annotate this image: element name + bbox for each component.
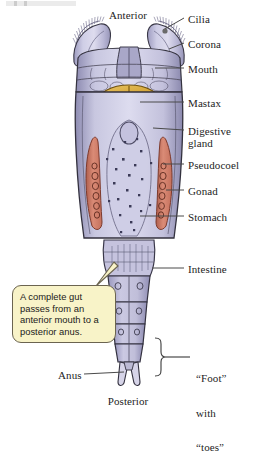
callout-box: A complete gut passes from an anterior m… [12, 285, 116, 343]
label-intestine: Intestine [188, 264, 227, 276]
label-corona: Corona [188, 39, 221, 51]
label-stomach: Stomach [188, 212, 227, 224]
callout-text: A complete gut passes from an anterior m… [20, 291, 109, 337]
label-foot-with-toes: “Foot” with “toes” [196, 350, 227, 455]
stomach-lumen [120, 122, 138, 144]
foot-label-line-1: “Foot” [196, 373, 227, 385]
label-mouth: Mouth [188, 64, 218, 76]
foot-bracket [155, 338, 190, 376]
label-posterior: Posterior [78, 396, 178, 408]
label-digestive-gland: Digestive gland [188, 126, 231, 149]
foot-label-line-3: “toes” [196, 442, 227, 454]
label-mastax: Mastax [188, 98, 221, 110]
label-anus: Anus [58, 370, 82, 382]
label-anterior: Anterior [78, 10, 178, 22]
label-gonad: Gonad [188, 186, 218, 198]
label-cilia: Cilia [188, 14, 210, 26]
label-pseudocoel: Pseudocoel [188, 160, 239, 172]
anus-opening [124, 362, 134, 370]
leader-anus [84, 372, 124, 374]
stomach-organ [107, 120, 151, 236]
foot-label-line-2: with [196, 408, 227, 420]
